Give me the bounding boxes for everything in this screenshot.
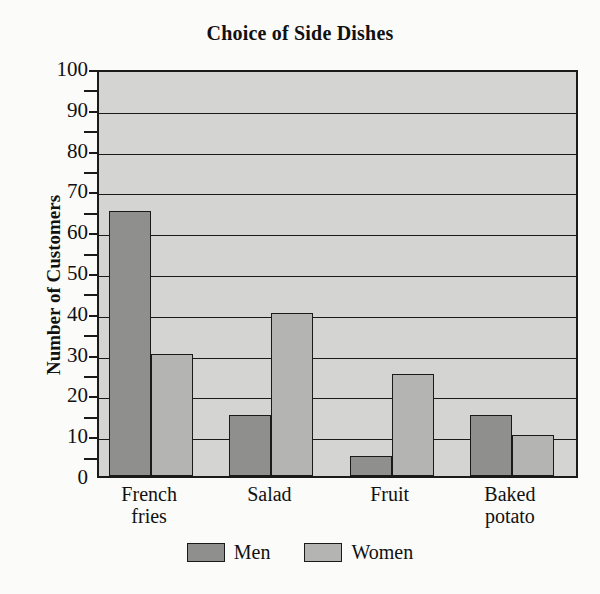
- y-tick-label: 0: [32, 467, 88, 488]
- chart-figure: Choice of Side Dishes Number of Customer…: [0, 0, 600, 594]
- gridline: [99, 194, 576, 195]
- gridline: [99, 154, 576, 155]
- y-tick-label: 20: [32, 385, 88, 406]
- y-tick-label: 50: [32, 263, 88, 284]
- y-tick-label: 90: [32, 100, 88, 121]
- bar-men-2: [350, 456, 392, 476]
- y-tick-label: 30: [32, 345, 88, 366]
- legend-label: Women: [351, 541, 413, 564]
- chart-legend: MenWomen: [0, 541, 600, 564]
- x-category-label: French fries: [89, 484, 209, 527]
- y-tick-label: 80: [32, 141, 88, 162]
- gridline: [99, 113, 576, 114]
- bar-women-3: [512, 435, 554, 476]
- gridline: [99, 317, 576, 318]
- plot-area: [97, 70, 578, 478]
- y-tick-label: 70: [32, 181, 88, 202]
- legend-swatch-icon: [304, 543, 342, 562]
- legend-label: Men: [234, 541, 271, 564]
- gridline: [99, 235, 576, 236]
- bar-men-3: [470, 415, 512, 476]
- x-category-label: Salad: [209, 484, 329, 506]
- bar-women-1: [271, 313, 313, 476]
- x-category-label: Fruit: [330, 484, 450, 506]
- legend-swatch-icon: [187, 543, 225, 562]
- gridline: [99, 276, 576, 277]
- y-tick-label: 10: [32, 426, 88, 447]
- y-tick-label: 40: [32, 304, 88, 325]
- bar-women-2: [392, 374, 434, 476]
- bar-men-0: [109, 211, 151, 476]
- bar-women-0: [151, 354, 193, 476]
- legend-entry-women: Women: [304, 541, 413, 564]
- y-tick-label: 60: [32, 222, 88, 243]
- chart-title: Choice of Side Dishes: [0, 22, 600, 45]
- bar-men-1: [229, 415, 271, 476]
- legend-entry-men: Men: [187, 541, 271, 564]
- y-tick-label: 100: [32, 59, 88, 80]
- x-category-label: Baked potato: [450, 484, 570, 527]
